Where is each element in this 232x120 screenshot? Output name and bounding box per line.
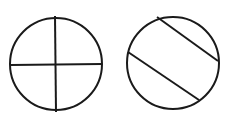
upper-chord [157, 17, 218, 61]
diagram-canvas [0, 0, 232, 120]
circle-quartered-figure [10, 16, 102, 112]
horizontal-diameter [11, 64, 102, 65]
circle-parallel-chords-figure [127, 17, 219, 109]
circle-outline [127, 17, 219, 109]
